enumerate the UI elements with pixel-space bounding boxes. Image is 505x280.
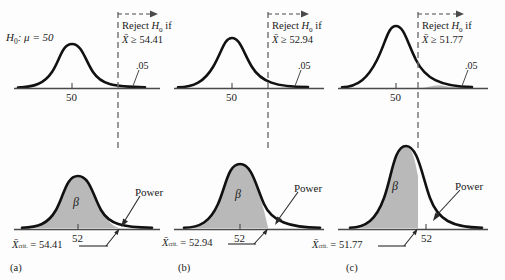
panel-b-bottom-tick-label: 52 <box>234 232 245 244</box>
panel-c-power-label: Power <box>455 180 483 192</box>
panel-a-beta-shade <box>22 176 118 228</box>
panel-b-beta-shade <box>184 164 268 228</box>
panel-b-beta-label: β <box>235 188 241 201</box>
panel-c-caption: (c) <box>346 262 358 274</box>
panel-a-power-label: Power <box>135 186 163 198</box>
panel-a-critical-value-label: X̄crit. = 54.41 <box>12 239 63 251</box>
panel-c-beta-label: β <box>392 180 398 193</box>
panel-c-critical-value-label: X̄crit. = 51.77 <box>312 239 363 251</box>
panel-c-beta-shade <box>350 146 418 228</box>
panel-b-reject-rule: Reject H0 if X̄ ≥ 52.94 <box>272 20 322 46</box>
panel-a-beta-label: β <box>73 196 79 209</box>
panel-b-caption: (b) <box>178 262 190 274</box>
panel-c-top-tick-label: 50 <box>390 91 401 103</box>
panel-b-alpha-label: .05 <box>298 60 311 71</box>
panel-c-alpha-label: .05 <box>465 60 478 71</box>
panel-b-power-arrow <box>278 192 298 220</box>
panel-a-bottom-tick-label: 52 <box>72 232 83 244</box>
panel-b-reject-arrowhead <box>301 11 309 18</box>
panel-a-null-curve <box>18 44 145 88</box>
panel-a-top-tick-label: 50 <box>66 91 77 103</box>
panel-a-power-arrow <box>124 196 140 222</box>
panel-a-alpha-leader <box>133 70 139 86</box>
panel-a-alpha-label: .05 <box>136 60 149 71</box>
panel-c-reject-rule: Reject H0 if X̄ ≥ 51.77 <box>422 20 472 46</box>
panel-a-reject-rule: Reject H0 if X̄ ≥ 54.41 <box>122 20 172 46</box>
panel-c-power-arrow <box>436 190 460 216</box>
panel-b-power-label: Power <box>294 182 322 194</box>
panel-c-reject-arrowhead <box>456 11 464 18</box>
panel-a-caption: (a) <box>10 262 22 274</box>
panel-b: Reject H0 if X̄ ≥ 52.94 .05 50 β Power 5… <box>168 0 336 280</box>
panel-b-top-tick-label: 50 <box>226 91 237 103</box>
panel-a: H0: μ = 50 Reject H0 if X̄ ≥ 54.41 .05 5… <box>0 0 168 280</box>
panel-a-null-hypothesis-label: H0: μ = 50 <box>6 31 54 47</box>
panel-a-reject-arrowhead <box>150 11 158 18</box>
panel-b-critical-value-label: X̄crit. = 52.94 <box>162 237 213 249</box>
panel-c-bottom-tick-label: 52 <box>421 232 432 244</box>
power-curves-figure: H0: μ = 50 Reject H0 if X̄ ≥ 54.41 .05 5… <box>0 0 505 280</box>
panel-c-alpha-leader <box>462 70 468 86</box>
panel-b-alpha-leader <box>295 70 301 86</box>
panel-c: Reject H0 if X̄ ≥ 51.77 .05 50 β Power 5… <box>336 0 504 280</box>
